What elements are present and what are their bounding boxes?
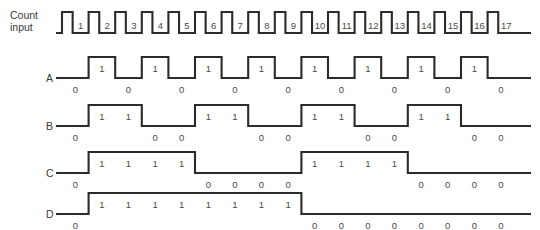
row-D-bit-7: 1: [259, 199, 264, 210]
row-B-bit-15: 0: [472, 132, 477, 143]
row-A-bit-15: 1: [472, 63, 477, 74]
clock-pulse-label-16: 16: [474, 20, 485, 31]
clock-pulse-label-1: 1: [78, 20, 83, 31]
row-B-bit-2: 1: [126, 111, 131, 122]
row-B-bit-10: 1: [339, 111, 344, 122]
clock-pulse-label-8: 8: [264, 20, 269, 31]
row-B-bit-3: 0: [152, 132, 157, 143]
clock-pulse-label-7: 7: [238, 20, 243, 31]
row-B-bit-5: 1: [206, 111, 211, 122]
row-A-bit-10: 0: [339, 84, 344, 95]
row-A-bit-14: 0: [445, 84, 450, 95]
row-A-bit-13: 1: [418, 63, 423, 74]
row-C-bit-2: 1: [126, 158, 131, 169]
clock-pulse-label-13: 13: [395, 20, 406, 31]
clock-pulse-label-2: 2: [105, 20, 110, 31]
row-C-bit-8: 0: [285, 179, 290, 190]
row-C-bit-7: 0: [259, 179, 264, 190]
clock-pulse-label-11: 11: [342, 20, 352, 31]
row-B-bit-13: 1: [418, 111, 423, 122]
row-C-bit-11: 1: [365, 158, 370, 169]
row-B-bit-4: 0: [179, 132, 184, 143]
clock-pulse-label-10: 10: [315, 20, 326, 31]
row-D-bit-5: 1: [206, 199, 211, 210]
row-label-D: D: [46, 208, 54, 220]
row-B-bit-6: 1: [232, 111, 237, 122]
row-C-bit-15: 0: [472, 179, 477, 190]
row-B-bit-8: 0: [285, 132, 290, 143]
row-B-bit-12: 0: [392, 132, 397, 143]
row-D-bit-15: 0: [472, 220, 477, 230]
clock-pulse-label-3: 3: [131, 20, 136, 31]
row-D-bit-16: 0: [498, 220, 503, 230]
row-C-bit-4: 1: [179, 158, 184, 169]
row-A-bit-4: 0: [179, 84, 184, 95]
timing-diagram: Count input 1234567891011121314151617A01…: [0, 0, 540, 230]
clock-pulse-label-14: 14: [421, 20, 432, 31]
row-D-bit-8: 1: [285, 199, 290, 210]
waveform-canvas: 1234567891011121314151617A01010101010101…: [0, 0, 540, 230]
row-A-bit-0: 0: [73, 84, 78, 95]
clock-pulse-label-4: 4: [158, 20, 163, 31]
clock-pulse-label-17: 17: [501, 20, 512, 31]
row-D-bit-6: 1: [232, 199, 237, 210]
row-B-bit-9: 1: [312, 111, 317, 122]
row-label-B: B: [46, 120, 53, 132]
row-C-bit-13: 0: [418, 179, 423, 190]
row-D-bit-1: 1: [99, 199, 104, 210]
clock-pulse-label-6: 6: [211, 20, 216, 31]
row-A-bit-6: 0: [232, 84, 237, 95]
row-D-bit-13: 0: [418, 220, 423, 230]
row-C-bit-12: 1: [392, 158, 397, 169]
row-waveform-B: [62, 105, 531, 126]
clock-pulse-label-5: 5: [184, 20, 189, 31]
row-C-bit-3: 1: [152, 158, 157, 169]
row-label-A: A: [46, 72, 53, 84]
row-C-bit-14: 0: [445, 179, 450, 190]
row-B-bit-14: 1: [445, 111, 450, 122]
row-D-bit-3: 1: [152, 199, 157, 210]
row-A-bit-8: 0: [285, 84, 290, 95]
row-D-bit-10: 0: [339, 220, 344, 230]
row-A-bit-12: 0: [392, 84, 397, 95]
row-D-bit-12: 0: [392, 220, 397, 230]
row-C-bit-10: 1: [339, 158, 344, 169]
row-D-bit-14: 0: [445, 220, 450, 230]
row-A-bit-5: 1: [206, 63, 211, 74]
row-A-bit-7: 1: [259, 63, 264, 74]
row-B-bit-11: 0: [365, 132, 370, 143]
row-C-bit-5: 0: [206, 179, 211, 190]
row-D-bit-0: 0: [73, 220, 78, 230]
row-C-bit-9: 1: [312, 158, 317, 169]
clock-pulse-label-15: 15: [448, 20, 459, 31]
row-D-bit-4: 1: [179, 199, 184, 210]
row-D-bit-2: 1: [126, 199, 131, 210]
row-waveform-D: [62, 193, 531, 214]
clock-pulse-label-12: 12: [368, 20, 379, 31]
row-A-bit-3: 1: [152, 63, 157, 74]
row-C-bit-6: 0: [232, 179, 237, 190]
row-waveform-A: [62, 57, 531, 78]
row-A-bit-11: 1: [365, 63, 370, 74]
row-B-bit-16: 0: [498, 132, 503, 143]
row-waveform-C: [62, 152, 531, 173]
row-D-bit-11: 0: [365, 220, 370, 230]
row-C-bit-0: 0: [73, 179, 78, 190]
row-A-bit-16: 0: [498, 84, 503, 95]
row-label-C: C: [46, 167, 54, 179]
row-C-bit-16: 0: [498, 179, 503, 190]
clock-pulse-label-9: 9: [291, 20, 296, 31]
row-B-bit-7: 0: [259, 132, 264, 143]
row-D-bit-9: 0: [312, 220, 317, 230]
row-C-bit-1: 1: [99, 158, 104, 169]
row-A-bit-9: 1: [312, 63, 317, 74]
row-A-bit-1: 1: [99, 63, 104, 74]
row-B-bit-1: 1: [99, 111, 104, 122]
row-A-bit-2: 0: [126, 84, 131, 95]
row-B-bit-0: 0: [73, 132, 78, 143]
